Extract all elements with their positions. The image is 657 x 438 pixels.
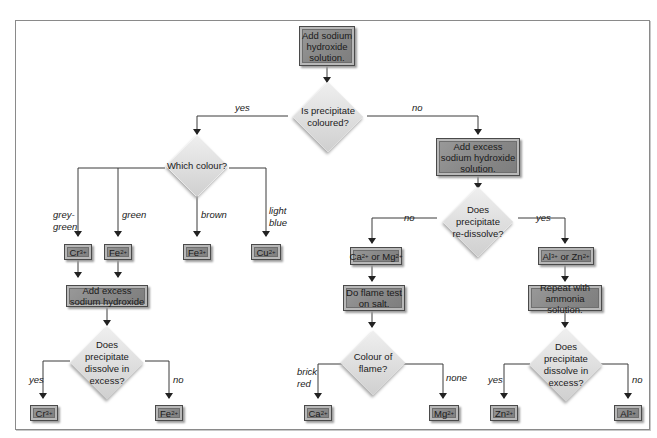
ion-symbol: Cu [257, 247, 269, 258]
label-green: green [122, 209, 146, 221]
ion-symbol: Cr [36, 408, 46, 419]
box-add-excess-sodium-hydroxide-right: Add excess sodium hydroxide solution. [436, 138, 520, 176]
label-yes-coloured: yes [235, 102, 250, 114]
decision-text: Colour of flame? [340, 330, 406, 396]
ion-symbol: Al [620, 408, 628, 419]
ion-box-fe3: Fe3+ [183, 244, 211, 260]
or-text: or [558, 251, 572, 262]
or-text: or [369, 251, 383, 262]
decision-text: Does precipitate dissolve in excess? [66, 328, 148, 398]
decision-text: Does precipitate re-dissolve? [436, 190, 520, 254]
ion-box-ca2-result: Ca2+ [304, 405, 332, 421]
label-brown: brown [201, 209, 227, 221]
decision-text: Does precipitate dissolve in excess? [526, 330, 606, 400]
box-al-or-zn: Al3+ or Zn2+ [538, 247, 594, 265]
label-brick-red: brick red [297, 366, 317, 390]
ion-symbol: Fe [109, 247, 120, 258]
ion-box-mg2-result: Mg2+ [429, 405, 459, 421]
label-no-ammonia: no [632, 374, 643, 386]
box-flame-test: Do flame test on salt. [343, 285, 405, 311]
box-text: Add excess sodium hydroxide [70, 285, 144, 307]
ion-box-fe2: Fe2+ [104, 244, 132, 260]
label-no-coloured: no [412, 102, 423, 114]
box-text: Do flame test on salt. [346, 287, 402, 309]
decision-colour-of-flame: Colour of flame? [340, 330, 406, 396]
ion-symbol: Zn [572, 251, 583, 262]
ion-box-fe2-result: Fe2+ [155, 405, 183, 421]
decision-dissolve-in-excess-right: Does precipitate dissolve in excess? [526, 330, 606, 400]
box-text: Repeat with ammonia solution. [529, 282, 601, 315]
ion-symbol: Fe [160, 408, 171, 419]
ion-box-al3-result: Al3+ [614, 405, 642, 421]
box-add-excess-sodium-hydroxide-left: Add excess sodium hydroxide [66, 285, 148, 307]
box-ca-or-mg: Ca2+ or Mg2+ [350, 247, 402, 265]
ion-symbol: Al [543, 251, 551, 262]
ion-symbol: Zn [495, 408, 506, 419]
label-yes-redissolve: yes [536, 212, 551, 224]
label-no-left-dissolve: no [173, 374, 184, 386]
label-light-blue: light blue [269, 205, 287, 229]
ion-box-cr3-result: Cr3+ [30, 405, 58, 421]
ion-box-cu2: Cu2+ [251, 244, 281, 260]
ion-symbol: Mg [434, 408, 447, 419]
label-yes-ammonia: yes [488, 374, 503, 386]
ion-box-cr3: Cr3+ [64, 244, 92, 260]
decision-which-colour: Which colour? [162, 136, 232, 196]
decision-text: Which colour? [162, 136, 232, 196]
ion-symbol: Ca [309, 408, 321, 419]
start-box-add-sodium-hydroxide: Add sodium hydroxide solution. [299, 26, 355, 66]
label-yes-left-dissolve: yes [29, 374, 44, 386]
ion-symbol: Ca [350, 251, 362, 262]
label-grey-green: grey- green [53, 209, 77, 233]
ion-symbol: Cr [70, 247, 80, 258]
start-box-text: Add sodium hydroxide solution. [302, 30, 352, 63]
ion-symbol: Mg [382, 251, 395, 262]
decision-text: Is precipitate coloured? [288, 84, 368, 150]
label-no-redissolve: no [404, 212, 415, 224]
ion-symbol: Fe [188, 247, 199, 258]
label-none: none [446, 372, 467, 384]
box-text: Add excess sodium hydroxide solution. [441, 141, 515, 174]
ion-box-zn2-result: Zn2+ [490, 405, 518, 421]
decision-dissolve-in-excess-left: Does precipitate dissolve in excess? [66, 328, 148, 398]
decision-re-dissolve: Does precipitate re-dissolve? [436, 190, 520, 254]
box-repeat-with-ammonia: Repeat with ammonia solution. [528, 285, 602, 311]
decision-is-precipitate-coloured: Is precipitate coloured? [288, 84, 368, 150]
